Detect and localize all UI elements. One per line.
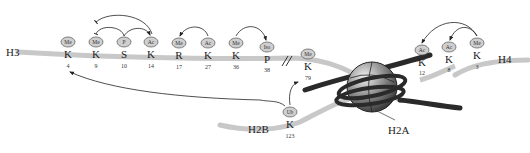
svg-text:3: 3 [476, 64, 479, 70]
svg-text:8: 8 [448, 67, 451, 73]
svg-text:K: K [286, 118, 294, 130]
svg-text:Me: Me [232, 40, 240, 46]
h3-site-r17: Me R 17 [172, 38, 186, 70]
svg-text:Me: Me [304, 51, 312, 57]
h3-site-k36: Me K 36 [229, 38, 243, 70]
svg-text:Ub: Ub [287, 109, 294, 115]
svg-text:123: 123 [286, 133, 295, 139]
svg-text:Me: Me [64, 39, 72, 45]
svg-text:Iso: Iso [264, 44, 271, 50]
h4-tail [455, 60, 528, 75]
svg-text:K: K [64, 48, 72, 60]
svg-text:Ac: Ac [446, 44, 453, 50]
svg-text:17: 17 [176, 64, 182, 70]
svg-text:K: K [232, 49, 240, 61]
svg-text:Ac: Ac [148, 39, 155, 45]
svg-text:79: 79 [305, 75, 311, 81]
svg-text:K: K [473, 49, 481, 61]
svg-text:K: K [147, 48, 155, 60]
svg-text:36: 36 [233, 64, 239, 70]
histone-crosstalk-diagram: H3 H4 H2B H2A Me K 4 Me K 9 P S 10 Ac K … [0, 0, 530, 153]
svg-text:P: P [122, 39, 125, 45]
h3-site-k27: Ac K 27 [201, 38, 215, 70]
h3-site-s10: P S 10 [117, 37, 131, 69]
svg-text:Ac: Ac [419, 47, 426, 53]
svg-text:14: 14 [148, 63, 154, 69]
svg-text:12: 12 [419, 70, 425, 76]
svg-text:27: 27 [205, 64, 211, 70]
svg-text:38: 38 [264, 67, 270, 73]
svg-text:P: P [264, 53, 270, 65]
svg-text:K: K [445, 53, 453, 65]
svg-text:10: 10 [121, 63, 127, 69]
h2b-label: H2B [248, 123, 269, 135]
svg-text:K: K [304, 60, 312, 72]
h3-site-k79: Me K 79 [301, 49, 315, 81]
h3-site-k14: Ac K 14 [144, 37, 158, 69]
svg-text:9: 9 [95, 63, 98, 69]
h3-label: H3 [6, 46, 20, 58]
svg-text:K: K [418, 56, 426, 68]
svg-text:Me: Me [175, 40, 183, 46]
svg-text:Me: Me [92, 39, 100, 45]
h3-site-k9: Me K 9 [89, 37, 103, 69]
h4-label: H4 [498, 53, 512, 65]
svg-text:K: K [92, 48, 100, 60]
svg-text:R: R [175, 49, 183, 61]
svg-text:Me: Me [473, 40, 481, 46]
svg-text:4: 4 [67, 63, 70, 69]
svg-text:S: S [121, 48, 127, 60]
h2a-label: H2A [388, 124, 409, 136]
h4-site-k12: Ac K 12 [415, 45, 429, 76]
svg-text:Ac: Ac [205, 40, 212, 46]
svg-text:K: K [204, 49, 212, 61]
